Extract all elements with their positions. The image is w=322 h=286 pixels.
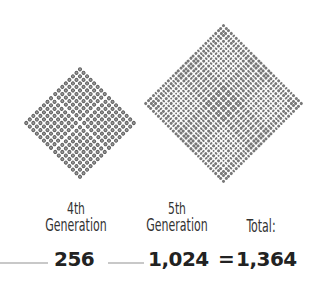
individual-dot xyxy=(77,175,83,181)
total-count: 1,364 xyxy=(236,247,297,271)
connector-line xyxy=(108,262,144,264)
fourth-generation-label: 4th Generation xyxy=(22,202,130,234)
fifth-generation-label: 5th Generation xyxy=(122,202,232,234)
individual-dot xyxy=(132,120,138,126)
equals-sign: = xyxy=(218,247,234,271)
generation-word: Generation xyxy=(137,217,216,234)
total-word: Total: xyxy=(236,218,286,235)
fifth-generation-dot-diamond xyxy=(144,24,304,184)
individual-dot xyxy=(222,179,226,183)
fourth-generation-count: 256 xyxy=(54,247,94,271)
fourth-generation-dot-diamond xyxy=(22,65,138,181)
total-label: Total: xyxy=(226,218,296,235)
connector-line xyxy=(0,262,48,264)
fifth-generation-count: 1,024 xyxy=(148,247,209,271)
generation-word: Generation xyxy=(37,217,115,234)
